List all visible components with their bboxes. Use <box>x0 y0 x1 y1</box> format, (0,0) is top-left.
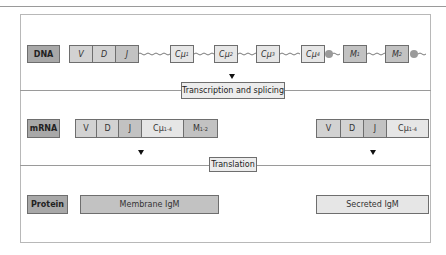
mrna-membrane-d: D <box>96 119 119 138</box>
polya-site-membrane-icon <box>410 50 418 58</box>
mrna-secreted-cmu: Cμ1-4 <box>386 119 429 138</box>
protein-membrane-igm: Membrane IgM <box>80 195 219 214</box>
dna-segment-d: D <box>92 45 116 63</box>
dna-segment-m1: M1 <box>343 45 367 63</box>
mrna-membrane-v: V <box>75 119 97 138</box>
intron-after-m2 <box>418 53 426 55</box>
dna-segment-cmu3: Cμ3 <box>256 45 280 63</box>
mrna-membrane-cmu: Cμ1-4 <box>141 119 184 138</box>
mrna-secreted-v: V <box>316 119 341 138</box>
protein-row-label: Protein <box>27 195 68 214</box>
arrow-down-icon <box>370 150 376 155</box>
mrna-secreted-j: J <box>363 119 387 138</box>
mrna-membrane-m: M1-2 <box>183 119 218 138</box>
dna-segment-m2: M2 <box>385 45 409 63</box>
intron-m1-m2 <box>367 53 387 55</box>
intron-j-cmu1 <box>138 53 170 55</box>
mrna-membrane-j: J <box>118 119 142 138</box>
polya-site-secreted-icon <box>325 50 333 58</box>
dna-segment-cmu4: Cμ4 <box>301 45 325 63</box>
intron-cmu4-m1 <box>332 53 340 55</box>
dna-segment-v: V <box>69 45 93 63</box>
intron-cmu3-cmu4 <box>280 53 300 55</box>
intron-cmu2-cmu3 <box>238 53 258 55</box>
dna-segment-cmu2: Cμ2 <box>214 45 238 63</box>
protein-secreted-igm: Secreted IgM <box>316 195 429 214</box>
mrna-secreted-d: D <box>340 119 364 138</box>
dna-segment-cmu1: Cμ1 <box>170 45 194 63</box>
dna-segment-j: J <box>115 45 139 63</box>
step-transcription-splicing: Transcription and splicing <box>181 82 285 99</box>
step-translation: Translation <box>209 157 257 172</box>
mrna-row-label: mRNA <box>27 119 60 138</box>
arrow-down-icon <box>229 74 235 79</box>
arrow-down-icon <box>138 150 144 155</box>
intron-cmu1-cmu2 <box>194 53 214 55</box>
